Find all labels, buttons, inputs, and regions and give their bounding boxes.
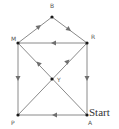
directed-graph-diagram: B M R Y P A Start	[0, 0, 119, 129]
edge-m-b	[18, 17, 52, 43]
node-label-p: P	[11, 119, 15, 126]
node-b	[50, 15, 53, 18]
node-label-m: M	[11, 35, 16, 42]
arrow-icon-r-m	[51, 41, 56, 46]
node-label-y: Y	[56, 76, 61, 83]
arrow-icon-m-p	[16, 76, 21, 81]
node-y	[50, 77, 53, 80]
node-label-a: A	[88, 119, 93, 126]
node-label-r: R	[91, 33, 95, 40]
arrow-icon-r-a	[85, 76, 90, 81]
arrow-icon-a-p	[52, 113, 57, 118]
start-label: Start	[89, 106, 110, 118]
node-r	[85, 41, 88, 44]
node-m	[16, 41, 19, 44]
node-label-b: B	[50, 2, 54, 9]
node-p	[16, 113, 19, 116]
arrow-icon-a-m	[35, 60, 42, 67]
